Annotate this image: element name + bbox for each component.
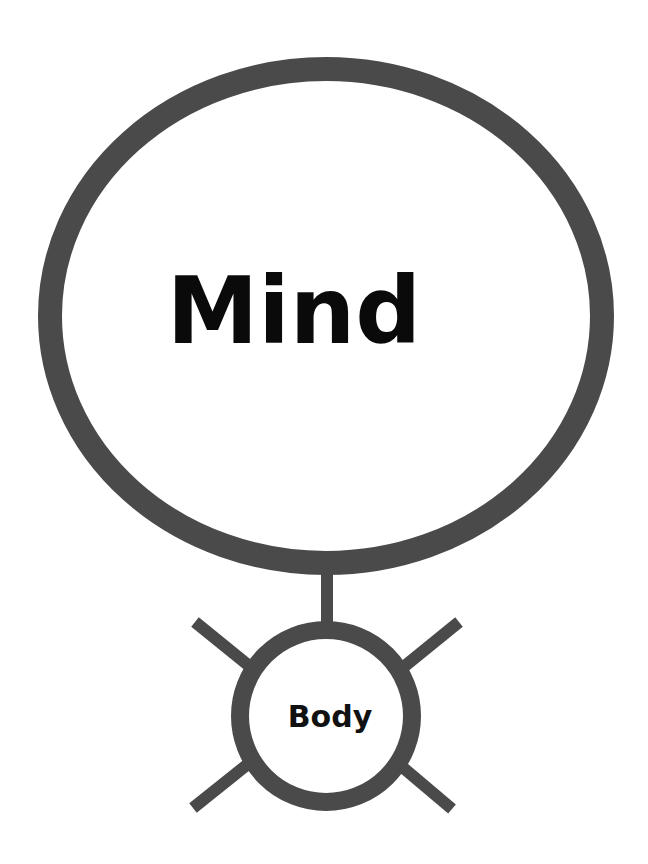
body-label: Body xyxy=(288,699,373,734)
mind-body-diagram: Mind Body xyxy=(0,0,648,864)
mind-label: Mind xyxy=(167,258,421,365)
